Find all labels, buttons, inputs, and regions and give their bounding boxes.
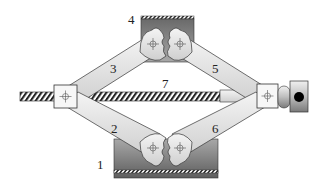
diagram-canvas: 4 3 5 7 2 6 1	[0, 0, 326, 185]
label-5: 5	[212, 61, 219, 76]
collar	[278, 86, 290, 108]
label-4: 4	[128, 12, 135, 27]
label-3: 3	[110, 61, 117, 76]
label-2: 2	[111, 121, 118, 136]
label-6: 6	[212, 121, 219, 136]
socket-hole-icon	[294, 92, 304, 102]
scissor-jack-diagram: 4 3 5 7 2 6 1	[0, 0, 326, 185]
label-1: 1	[97, 157, 104, 172]
right-block	[257, 81, 308, 112]
label-7: 7	[162, 76, 169, 91]
left-nut-block	[54, 85, 77, 108]
